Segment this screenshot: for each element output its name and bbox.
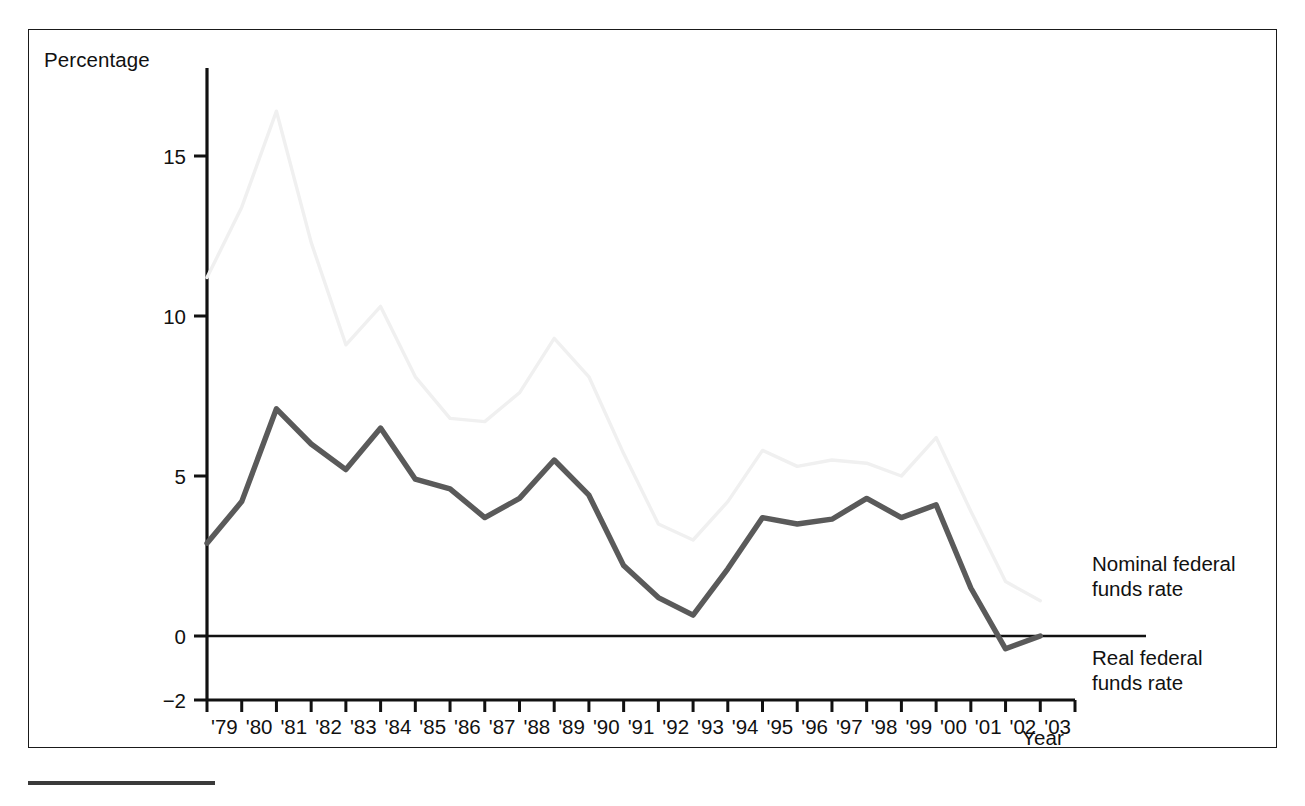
legend-label-real-line2: funds rate <box>1092 670 1203 695</box>
x-tick-label: '94 <box>732 715 759 738</box>
y-tick-label: −2 <box>163 689 186 712</box>
x-tick-label: '80 <box>246 715 273 738</box>
x-tick-label: '96 <box>801 715 828 738</box>
series-line-nominal <box>207 111 1040 601</box>
x-tick-label: '83 <box>350 715 377 738</box>
legend-label-real: Real federal funds rate <box>1092 645 1203 695</box>
x-tick-label: '85 <box>419 715 446 738</box>
x-tick-labels: '79'80'81'82'83'84'85'86'87'88'89'90'91'… <box>211 715 1071 738</box>
x-tick-label: '86 <box>454 715 481 738</box>
y-tick-label: 5 <box>175 465 186 488</box>
y-tick-label: 0 <box>175 625 186 648</box>
x-tick-label: '90 <box>593 715 620 738</box>
x-tick-label: '93 <box>697 715 724 738</box>
y-tick-label: 10 <box>163 305 186 328</box>
y-axis-title: Percentage <box>44 48 150 72</box>
x-tick-label: '00 <box>940 715 967 738</box>
y-tick-label: 15 <box>163 145 186 168</box>
x-tick-label: '87 <box>489 715 516 738</box>
x-tick-label: '92 <box>662 715 689 738</box>
legend-label-nominal: Nominal federal funds rate <box>1092 551 1236 601</box>
x-tick-label: '97 <box>836 715 863 738</box>
legend-label-real-line1: Real federal <box>1092 645 1203 670</box>
x-tick-label: '01 <box>975 715 1002 738</box>
y-tick-labels: −2051015 <box>163 145 186 712</box>
x-tick-label: '88 <box>523 715 550 738</box>
bottom-rule <box>28 781 215 785</box>
x-tick-label: '79 <box>211 715 238 738</box>
x-axis-title: Year <box>1022 726 1064 750</box>
figure-container: −2051015 '79'80'81'82'83'84'85'86'87'88'… <box>0 0 1305 806</box>
x-tick-label: '95 <box>767 715 794 738</box>
x-tick-label: '82 <box>315 715 342 738</box>
x-tick-label: '89 <box>558 715 585 738</box>
series-line-real <box>207 409 1040 649</box>
x-tick-label: '91 <box>628 715 655 738</box>
x-tick-marks <box>207 700 1075 712</box>
x-tick-label: '84 <box>385 715 412 738</box>
x-tick-label: '99 <box>905 715 932 738</box>
x-tick-label: '98 <box>871 715 898 738</box>
x-tick-label: '81 <box>280 715 307 738</box>
legend-label-nominal-line2: funds rate <box>1092 576 1236 601</box>
y-tick-marks <box>194 156 207 700</box>
legend-label-nominal-line1: Nominal federal <box>1092 551 1236 576</box>
